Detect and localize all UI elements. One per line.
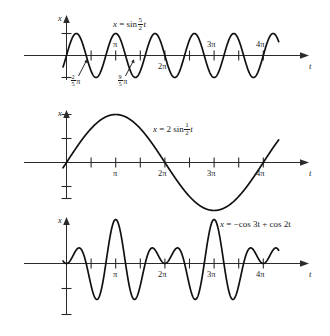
x-axis-arrowhead-3 <box>300 260 309 267</box>
equation-3-lhs: x <box>220 219 224 229</box>
x-tick-label-2-pi: π <box>113 169 117 178</box>
x-tick-label-1-pi: π <box>113 40 117 49</box>
x-tick-label-2-2pi: 2π <box>158 169 167 178</box>
equation-1-numerator: 5 <box>138 17 144 24</box>
equation-3-term2: cos 2t <box>269 219 290 229</box>
x-tick-label-3-3pi: 3π <box>207 270 216 279</box>
equation-1-lhs: x <box>113 19 117 29</box>
x-tick-label-3-2pi: 2π <box>158 270 167 279</box>
x-axis-arrowhead-2 <box>300 159 309 166</box>
y-axis-label-1: x <box>58 14 62 23</box>
y-axis-label-2: x <box>58 109 62 118</box>
chart-svg-1 <box>0 0 330 100</box>
chart-panel-sin-5-2-t: x t π 2π 3π 4π x = sin52t 25π 95π <box>0 0 330 100</box>
equation-2: x = 2 sin12t <box>153 122 193 138</box>
x-tick-label-2-4pi: 4π <box>256 169 265 178</box>
equation-1-denominator: 2 <box>138 24 144 32</box>
annotation-2-5-pi-symbol: π <box>76 77 80 86</box>
equation-1-fn: sin <box>127 19 138 29</box>
equation-1-var: t <box>144 19 147 29</box>
trig-graphs-figure: x t π 2π 3π 4π x = sin52t 25π 95π <box>0 0 330 336</box>
x-axis-arrowhead-1 <box>300 52 309 59</box>
x-tick-label-3-4pi: 4π <box>256 270 265 279</box>
equation-3-term1: −cos 3t <box>234 219 260 229</box>
chart-svg-2 <box>0 100 330 205</box>
chart-panel-cos-sum: x t π 2π 3π 4π x = −cos 3t + cos 2t <box>0 205 330 336</box>
equation-1-fraction: 52 <box>138 17 144 33</box>
chart-panel-2-sin-half-t: x t π 2π 3π 4π x = 2 sin12t <box>0 100 330 205</box>
x-tick-label-2-3pi: 3π <box>207 169 216 178</box>
x-tick-label-1-2pi: 2π <box>158 62 167 71</box>
x-axis-label-1: t <box>309 62 311 71</box>
x-axis-label-3: t <box>309 270 311 279</box>
equation-3-plus: + <box>262 219 267 229</box>
annotation-9-5-pi: 95π <box>117 74 127 88</box>
annotation-9-5-den: 5 <box>118 80 123 87</box>
x-axis-label-2: t <box>309 169 311 178</box>
equation-3-equals: = <box>226 219 231 229</box>
y-axis-arrowhead-1 <box>63 15 70 23</box>
equation-1-equals: = <box>119 19 124 29</box>
y-axis-arrowhead-3 <box>63 217 70 225</box>
equation-2-fn: sin <box>173 124 184 134</box>
annotation-9-5-fraction: 95 <box>118 74 123 88</box>
equation-2-lhs: x <box>153 124 157 134</box>
annotation-2-5-den: 5 <box>71 80 76 87</box>
x-tick-label-3-pi: π <box>113 270 117 279</box>
annotation-9-5-pi-symbol: π <box>123 77 127 86</box>
equation-2-coef: 2 <box>167 124 172 134</box>
equation-2-equals: = <box>159 124 164 134</box>
curve-neg-cos3t-plus-cos2t <box>63 220 279 300</box>
x-tick-label-1-4pi: 4π <box>256 40 265 49</box>
annotation-2-5-pi: 25π <box>70 74 80 88</box>
equation-1: x = sin52t <box>113 17 146 33</box>
y-axis-label-3: x <box>58 216 62 225</box>
annotation-2-5-fraction: 25 <box>71 74 76 88</box>
x-tick-label-1-3pi: 3π <box>207 40 216 49</box>
equation-3: x = −cos 3t + cos 2t <box>220 220 291 229</box>
equation-2-var: t <box>190 124 193 134</box>
